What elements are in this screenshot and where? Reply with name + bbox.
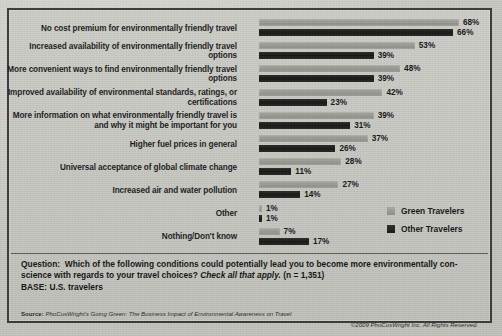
bar-value-label: 1%: [266, 215, 278, 223]
scanned-page: No cost premium for environmentally frie…: [0, 0, 502, 336]
bar-green: [259, 19, 459, 26]
bar-green: [259, 158, 341, 165]
bar-green: [259, 42, 415, 49]
category-label: Other: [1, 209, 237, 219]
question-line: Question: Which of the following conditi…: [21, 259, 480, 282]
bar-other: [259, 122, 350, 129]
chart-row: Universal acceptance of global climate c…: [9, 156, 490, 179]
bar-value-label: 66%: [457, 29, 473, 37]
bar-group: 28%11%: [259, 157, 488, 178]
bar-green: [259, 181, 338, 188]
category-label: Increased air and water pollution: [1, 186, 237, 196]
category-label: Universal acceptance of global climate c…: [1, 163, 237, 173]
category-label: Higher fuel prices in general: [1, 140, 237, 150]
chart-row: More information on what environmentally…: [9, 110, 490, 133]
bar-other: [259, 29, 453, 36]
bar-other: [259, 99, 327, 106]
chart-frame: No cost premium for environmentally frie…: [7, 8, 492, 323]
chart-row: Higher fuel prices in general37%26%: [9, 133, 490, 156]
chart-row: Increased availability of environmentall…: [9, 40, 490, 63]
category-label: Improved availability of environmental s…: [1, 89, 237, 108]
bar-other: [259, 168, 291, 175]
bar-green: [259, 228, 280, 235]
bar-value-label: 37%: [372, 135, 388, 143]
chart-row: More convenient ways to find environment…: [9, 63, 490, 86]
bar-other: [259, 191, 300, 198]
category-label: No cost premium for environmentally frie…: [1, 24, 237, 34]
bar-green: [259, 205, 262, 212]
bar-value-label: 11%: [295, 168, 311, 176]
copyright-line: ©2009 PhoCusWright Inc. All Rights Reser…: [351, 321, 478, 328]
bar-group: 48%39%: [259, 64, 488, 85]
bar-group: 53%39%: [259, 41, 488, 62]
bar-other: [259, 75, 374, 82]
footer-block: Question: Which of the following conditi…: [21, 259, 480, 293]
bar-value-label: 48%: [404, 65, 420, 73]
bar-value-label: 42%: [386, 89, 402, 97]
category-label: Nothing/Don't know: [1, 233, 237, 243]
question-sample-size: (n = 1,351): [283, 270, 324, 280]
bar-green: [259, 135, 368, 142]
bar-green: [259, 65, 400, 72]
bar-value-label: 1%: [266, 205, 278, 213]
bar-value-label: 68%: [463, 19, 479, 27]
bar-group: 42%23%: [259, 88, 488, 109]
bar-value-label: 31%: [354, 122, 370, 130]
category-label: Increased availability of environmentall…: [1, 42, 237, 61]
bar-value-label: 14%: [304, 191, 320, 199]
chart-row: Increased air and water pollution27%14%: [9, 179, 490, 202]
bar-other: [259, 215, 262, 222]
base-line: BASE: U.S. travelers: [21, 282, 480, 294]
source-line: Source: PhoCusWright's Going Green: The …: [21, 310, 291, 317]
bar-other: [259, 52, 374, 59]
legend-swatch-green-icon: [387, 207, 395, 215]
bar-value-label: 23%: [331, 99, 347, 107]
bar-group: 68%66%: [259, 18, 488, 39]
question-prefix: Question:: [21, 259, 60, 269]
bar-value-label: 28%: [345, 158, 361, 166]
chart-row: Improved availability of environmental s…: [9, 87, 490, 110]
bar-value-label: 39%: [378, 52, 394, 60]
legend-swatch-other-icon: [387, 225, 395, 233]
footer-divider: [11, 253, 488, 254]
bar-group: 37%26%: [259, 134, 488, 155]
category-label: More information on what environmentally…: [1, 112, 237, 131]
bar-value-label: 39%: [378, 112, 394, 120]
source-value: PhoCusWright's Going Green: The Business…: [45, 310, 291, 317]
bar-group: 39%31%: [259, 111, 488, 132]
bar-value-label: 39%: [378, 75, 394, 83]
bar-green: [259, 89, 382, 96]
bar-other: [259, 145, 335, 152]
legend-item-green-travelers: Green Travelers: [387, 206, 464, 216]
chart-row: No cost premium for environmentally frie…: [9, 17, 490, 40]
category-label: More convenient ways to find environment…: [1, 65, 237, 84]
legend-item-other-travelers: Other Travelers: [387, 224, 464, 234]
bar-value-label: 17%: [313, 238, 329, 246]
bar-value-label: 53%: [419, 42, 435, 50]
bar-green: [259, 112, 374, 119]
bar-group: 27%14%: [259, 180, 488, 201]
source-key: Source:: [21, 310, 44, 317]
bar-value-label: 7%: [284, 228, 296, 236]
bar-value-label: 27%: [342, 181, 358, 189]
chart-legend: Green Travelers Other Travelers: [387, 206, 464, 242]
bar-value-label: 26%: [339, 145, 355, 153]
question-emphasis: Check all that apply.: [200, 270, 281, 280]
legend-label-other-travelers: Other Travelers: [401, 224, 462, 234]
bar-other: [259, 238, 309, 245]
legend-label-green-travelers: Green Travelers: [401, 206, 464, 216]
